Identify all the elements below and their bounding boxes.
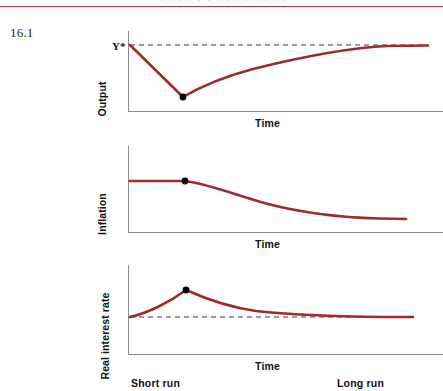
panel-output-y-title: Output (96, 59, 108, 139)
header-rule (0, 6, 443, 7)
output-curve (130, 45, 428, 97)
panel-inflation-y-title: Inflation (96, 172, 108, 256)
panel-output-curve-group (128, 31, 443, 112)
panel-real-interest-rate-x-title: Time (255, 360, 280, 372)
panel-output-x-title: Time (255, 117, 280, 129)
inflation-curve (130, 181, 406, 219)
panel-inflation-curve-group (128, 146, 443, 233)
output-short-run-marker (180, 94, 187, 101)
real-interest-rate-curve (130, 290, 413, 317)
running-header-text: · · · · · · · · · · · · · · (160, 0, 390, 4)
panel-inflation-x-title: Time (255, 238, 280, 250)
panel-real-interest-rate-y-title: Real interest rate (99, 271, 111, 391)
running-header: · · · · · · · · · · · · · · (0, 0, 443, 10)
panel-output-plot (128, 31, 443, 112)
long-run-label: Long run (337, 377, 384, 389)
panel-inflation-plot (128, 146, 443, 233)
short-run-label: Short run (131, 377, 180, 389)
panel-real-interest-rate-curve-group (128, 265, 443, 355)
inflation-short-run-marker (182, 178, 189, 185)
panel-real-interest-rate: Real interest rate Time (0, 265, 443, 375)
panel-output: Output Y* Time (0, 31, 443, 131)
real-interest-rate-short-run-marker (183, 287, 190, 294)
panel-real-interest-rate-plot (128, 265, 443, 355)
y-star-tick-label: Y* (112, 40, 125, 52)
panel-inflation: Inflation Time (0, 146, 443, 246)
